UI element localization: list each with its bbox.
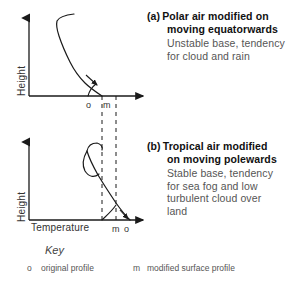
panel-a-tick-label-m: m bbox=[103, 100, 111, 110]
panel-b-heading-line2: on moving polewards bbox=[167, 153, 292, 166]
panel-b-heading-line1: Tropical air modified bbox=[163, 140, 268, 152]
key-symbol-o: o bbox=[27, 263, 41, 273]
panel-b-profile-pointer bbox=[120, 210, 128, 219]
panel-b-body-line2: for sea fog and low bbox=[167, 180, 292, 193]
panel-b-heading: (b)Tropical air modified on moving polew… bbox=[147, 140, 292, 165]
panel-b-x-axis-label: Temperature bbox=[31, 222, 89, 233]
key-entry-original: ooriginal profile bbox=[27, 263, 94, 273]
panel-a-body-line1: Unstable base, tendency bbox=[167, 37, 292, 50]
panel-b-body-line4: land bbox=[167, 205, 292, 218]
panel-b-original-profile-curve bbox=[87, 143, 130, 220]
key-title: Key bbox=[45, 244, 64, 256]
key-label-o: original profile bbox=[41, 263, 94, 273]
panel-b-y-axis-label: Height bbox=[16, 192, 27, 222]
panel-a-caption: (a)Polar air modified on moving equatorw… bbox=[147, 10, 292, 62]
panel-b-body-line1: Stable base, tendency bbox=[167, 167, 292, 180]
panel-b-tick-label-m: m bbox=[112, 224, 120, 234]
panel-a-y-axis-label: Height bbox=[16, 66, 27, 96]
panel-b-label: (b) bbox=[147, 140, 161, 152]
key-entry-modified: mmodified surface profile bbox=[133, 263, 235, 273]
key-symbol-m: m bbox=[133, 263, 147, 273]
panel-a-original-profile-pointer bbox=[86, 75, 97, 85]
panel-a-tick-label-o: o bbox=[86, 100, 91, 110]
panel-b-tick-label-o: o bbox=[124, 224, 129, 234]
panel-a-heading-line2: moving equatorwards bbox=[167, 23, 292, 36]
panel-a-body: Unstable base, tendency for cloud and ra… bbox=[167, 37, 292, 62]
panel-b-caption: (b)Tropical air modified on moving polew… bbox=[147, 140, 292, 217]
panel-a-heading-line1: Polar air modified on bbox=[162, 10, 269, 22]
key-label-m: modified surface profile bbox=[147, 263, 235, 273]
panel-b-body: Stable base, tendency for sea fog and lo… bbox=[167, 167, 292, 217]
panel-b-body-line3: turbulent cloud over bbox=[167, 192, 292, 205]
figure-container: (a)Polar air modified on moving equatorw… bbox=[0, 0, 295, 282]
panel-a-label: (a) bbox=[147, 10, 160, 22]
panel-a-original-profile-tail bbox=[88, 84, 96, 96]
panel-a-body-line2: for cloud and rain bbox=[167, 50, 292, 63]
panel-a-heading: (a)Polar air modified on moving equatorw… bbox=[147, 10, 292, 35]
panel-b-modified-profile-tail bbox=[102, 205, 116, 220]
